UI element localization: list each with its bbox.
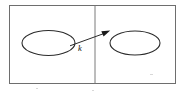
diagram-canvas: k	[0, 0, 182, 97]
scan-speckle	[92, 90, 94, 91]
scan-speckle	[36, 88, 38, 89]
mapping-arrow-head-icon	[101, 31, 110, 37]
arrow-label-k: k	[78, 43, 82, 53]
scan-speckle	[150, 74, 153, 75]
right-ellipse-shape	[110, 31, 160, 55]
outer-frame-rect	[10, 6, 176, 84]
figure-root: k	[0, 0, 182, 97]
left-ellipse-shape	[22, 31, 75, 56]
mapping-arrow-shaft	[70, 33, 107, 46]
